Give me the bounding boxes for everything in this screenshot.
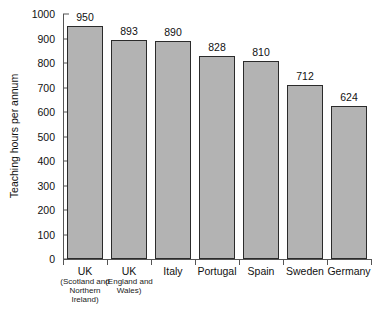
- y-tick-label: 400: [0, 155, 55, 167]
- x-tick-mark: [239, 259, 240, 265]
- x-tick-mark: [195, 259, 196, 265]
- category-label: Germany: [320, 266, 378, 277]
- bar: [287, 85, 323, 259]
- bar-value-label: 810: [252, 46, 270, 58]
- y-tick-label: 500: [0, 131, 55, 143]
- y-tick-label: 100: [0, 229, 55, 241]
- y-tick-label: 1000: [0, 8, 55, 20]
- bar-value-label: 893: [120, 25, 138, 37]
- bar: [111, 40, 147, 259]
- bar: [199, 56, 235, 259]
- y-tick-label: 900: [0, 33, 55, 45]
- y-tick-label: 300: [0, 180, 55, 192]
- y-tick-label: 600: [0, 106, 55, 118]
- y-tick-label: 700: [0, 82, 55, 94]
- bar-value-label: 624: [340, 91, 358, 103]
- bar: [243, 61, 279, 259]
- y-tick-label: 200: [0, 204, 55, 216]
- bar: [331, 106, 367, 259]
- bar-value-label: 890: [164, 26, 182, 38]
- bar: [155, 41, 191, 259]
- x-tick-mark: [283, 259, 284, 265]
- bar-value-label: 712: [296, 70, 314, 82]
- y-tick-label: 800: [0, 57, 55, 69]
- category-label-main: Germany: [320, 266, 378, 277]
- bar-value-label: 950: [76, 11, 94, 23]
- y-tick-label: 0: [0, 253, 55, 265]
- x-tick-mark: [151, 259, 152, 265]
- x-tick-mark: [371, 259, 372, 265]
- bar-chart: Teaching hours per annum 010020030040050…: [0, 0, 384, 315]
- bar: [67, 26, 103, 259]
- x-tick-mark: [107, 259, 108, 265]
- category-label-sub: (England and Wales): [100, 278, 158, 295]
- y-axis-line: [63, 14, 64, 260]
- bar-value-label: 828: [208, 41, 226, 53]
- x-axis-line: [63, 259, 371, 260]
- y-tick-mark: [63, 14, 69, 15]
- x-tick-mark: [63, 259, 64, 265]
